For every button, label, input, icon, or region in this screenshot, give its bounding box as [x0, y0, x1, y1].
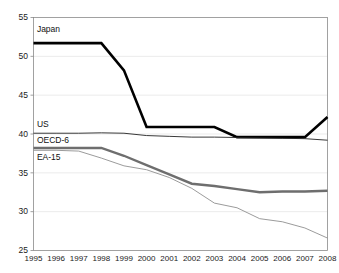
series-line-oecd-6 [34, 148, 328, 192]
x-tick-label-2004: 2004 [228, 254, 246, 263]
y-tick-label-30: 30 [19, 206, 29, 216]
y-tick-label-40: 40 [19, 129, 29, 139]
series-inline-labels: JapanUSOECD-6EA-15 [37, 24, 69, 162]
gridlines [34, 56, 328, 211]
y-tick-label-45: 45 [19, 90, 29, 100]
x-tick-label-2007: 2007 [296, 254, 314, 263]
y-axis-ticks: 25303540455055 [19, 12, 34, 255]
x-tick-label-1997: 1997 [70, 254, 88, 263]
x-tick-label-2000: 2000 [138, 254, 156, 263]
line-chart: 25303540455055 1995199619971998199920002… [0, 0, 339, 273]
x-tick-label-2003: 2003 [206, 254, 224, 263]
series-lines [34, 43, 328, 238]
series-label-ea-15: EA-15 [37, 152, 61, 162]
x-tick-label-1996: 1996 [47, 254, 65, 263]
x-axis-ticks: 1995199619971998199920002001200220032004… [25, 254, 337, 263]
series-label-japan: Japan [37, 24, 60, 34]
x-tick-label-2006: 2006 [273, 254, 291, 263]
x-tick-label-2008: 2008 [319, 254, 337, 263]
chart-canvas: 25303540455055 1995199619971998199920002… [0, 0, 339, 273]
y-tick-label-55: 55 [19, 12, 29, 22]
y-tick-label-35: 35 [19, 168, 29, 178]
series-label-oecd-6: OECD-6 [37, 135, 69, 145]
x-tick-label-2005: 2005 [251, 254, 269, 263]
x-tick-label-1998: 1998 [92, 254, 110, 263]
x-tick-label-1999: 1999 [115, 254, 133, 263]
x-tick-label-2001: 2001 [160, 254, 178, 263]
x-tick-label-2002: 2002 [183, 254, 201, 263]
x-tick-label-1995: 1995 [25, 254, 43, 263]
y-tick-label-50: 50 [19, 51, 29, 61]
series-label-us: US [37, 119, 49, 129]
series-line-ea-15 [34, 150, 328, 238]
series-line-japan [34, 43, 328, 137]
